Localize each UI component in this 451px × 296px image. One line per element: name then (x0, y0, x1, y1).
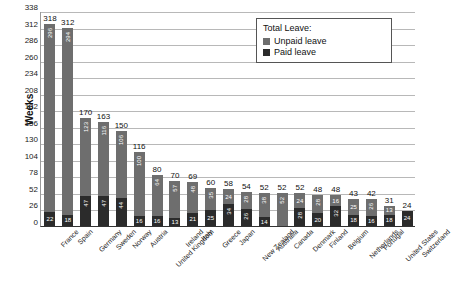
bar-group[interactable]: 17012347 (80, 118, 91, 226)
bar-segment-unpaid[interactable]: 294 (62, 28, 73, 215)
legend-swatch-icon (263, 38, 270, 45)
legend-entries: Unpaid leavePaid leave (263, 36, 385, 57)
bar-group[interactable]: 603525 (205, 188, 216, 226)
bar-segment-unpaid-value: 28 (243, 196, 249, 203)
bar-segment-paid-value: 20 (312, 217, 323, 223)
bar-group[interactable]: 542826 (241, 192, 252, 226)
y-axis-tick: 26 (14, 202, 38, 210)
bar-segment-paid-value: 34 (226, 208, 232, 215)
bar-segment-unpaid[interactable]: 38 (259, 193, 270, 217)
bar-segment-paid[interactable]: 32 (330, 206, 341, 226)
bar-segment-paid[interactable]: 13 (169, 218, 180, 226)
bar-segment-paid[interactable]: 44 (116, 198, 127, 226)
bar-segment-paid[interactable]: 22 (44, 212, 55, 226)
bar-group[interactable]: 705713 (169, 181, 180, 226)
bar-segment-unpaid[interactable]: 106 (116, 131, 127, 198)
bar-segment-unpaid-value: 48 (190, 186, 196, 193)
bar-segment-unpaid-value: 64 (154, 179, 160, 186)
bar-segment-paid-value: 13 (169, 219, 180, 225)
bar-total-label: 24 (396, 202, 419, 210)
bar-segment-unpaid-value: 106 (118, 135, 124, 145)
bar-group[interactable]: 15010644 (116, 131, 127, 226)
bar-segment-paid[interactable]: 16 (366, 216, 377, 226)
bar-group[interactable]: 5252 (277, 193, 288, 226)
bar-segment-unpaid-value: 16 (330, 198, 341, 204)
legend-entry[interactable]: Paid leave (263, 47, 385, 57)
bar-segment-unpaid[interactable]: 48 (187, 182, 198, 213)
bar-total-label: 116 (128, 143, 151, 151)
bar-segment-paid[interactable]: 14 (259, 217, 270, 226)
bar-group[interactable]: 422616 (366, 199, 377, 226)
bar-segment-unpaid[interactable]: 52 (277, 193, 288, 226)
bar-segment-paid[interactable]: 20 (312, 213, 323, 226)
bar-segment-unpaid[interactable]: 25 (348, 199, 359, 215)
bar-group[interactable]: 582434 (223, 189, 234, 226)
bar-total-label: 150 (110, 122, 133, 130)
bar-total-label: 163 (92, 113, 115, 121)
bar-segment-unpaid[interactable]: 123 (80, 118, 91, 196)
bar-segment-paid[interactable]: 16 (152, 216, 163, 226)
bar-group[interactable]: 31229418 (62, 28, 73, 226)
bar-group[interactable]: 523814 (259, 193, 270, 226)
bar-group[interactable]: 432518 (348, 199, 359, 226)
bar-segment-paid-value: 16 (152, 218, 163, 224)
bar-total-label: 312 (56, 19, 79, 27)
bar-segment-paid[interactable]: 47 (80, 196, 91, 226)
bar-segment-unpaid[interactable]: 35 (205, 188, 216, 210)
bar-group[interactable]: 694821 (187, 182, 198, 226)
bar-segment-paid[interactable]: 26 (241, 209, 252, 226)
bar-segment-paid[interactable]: 18 (62, 215, 73, 226)
bar-segment-paid[interactable]: 16 (134, 216, 145, 226)
bar-segment-paid-value: 32 (333, 210, 339, 217)
bar-group[interactable]: 16311647 (98, 122, 109, 226)
bar-segment-paid-value: 44 (118, 202, 124, 209)
bar-segment-paid[interactable]: 18 (384, 215, 395, 226)
bar-segment-paid[interactable]: 34 (223, 204, 234, 226)
bar-group[interactable]: 806416 (152, 175, 163, 226)
bar-segment-unpaid-value: 26 (368, 203, 374, 210)
bar-group[interactable]: 2424 (402, 211, 413, 226)
bar-segment-unpaid[interactable]: 296 (44, 24, 55, 212)
bar-segment-unpaid-value: 25 (348, 204, 359, 210)
bar-group[interactable]: 311318 (384, 206, 395, 226)
y-axis-tick: 260 (14, 54, 38, 62)
bar-group[interactable]: 11610016 (134, 152, 145, 226)
legend-swatch-icon (263, 49, 270, 56)
x-axis-label: Greece (220, 228, 241, 249)
bar-group[interactable]: 481632 (330, 195, 341, 226)
bar-segment-paid[interactable]: 24 (402, 211, 413, 226)
bar-segment-unpaid[interactable]: 16 (330, 195, 341, 205)
bar-segment-paid[interactable]: 18 (348, 215, 359, 226)
x-axis-label: France (59, 228, 79, 248)
bar-segment-unpaid-value: 296 (47, 28, 53, 38)
bar-segment-unpaid[interactable]: 116 (98, 122, 109, 196)
y-axis-tick: 156 (14, 120, 38, 128)
bar-segment-paid[interactable]: 47 (98, 196, 109, 226)
bar-segment-paid-value: 22 (44, 216, 55, 222)
bar-segment-paid-value: 21 (187, 216, 198, 222)
bar-segment-paid[interactable]: 28 (294, 208, 305, 226)
bar-segment-unpaid[interactable]: 64 (152, 175, 163, 216)
bar-segment-unpaid[interactable]: 24 (223, 189, 234, 204)
bar-segment-unpaid-value: 24 (223, 194, 234, 200)
bar-segment-unpaid-value: 28 (315, 199, 321, 206)
legend-entry[interactable]: Unpaid leave (263, 36, 385, 46)
bar-segment-unpaid-value: 100 (136, 156, 142, 166)
bar-segment-unpaid[interactable]: 13 (384, 206, 395, 214)
x-axis-category-labels: FranceSpainGermanySwedenNorwayAustriaUni… (40, 228, 415, 290)
bar-segment-unpaid[interactable]: 100 (134, 152, 145, 216)
bar-group[interactable]: 482820 (312, 195, 323, 226)
y-axis-tick: 312 (14, 21, 38, 29)
bar-segment-paid-value: 16 (134, 218, 145, 224)
bar-segment-unpaid[interactable]: 28 (312, 195, 323, 213)
bar-segment-unpaid[interactable]: 28 (241, 192, 252, 210)
bar-segment-unpaid[interactable]: 57 (169, 181, 180, 217)
bar-segment-paid[interactable]: 21 (187, 213, 198, 226)
legend-label: Paid leave (274, 47, 316, 57)
bar-group[interactable]: 31829622 (44, 24, 55, 226)
bar-segment-unpaid[interactable]: 24 (294, 193, 305, 208)
bar-segment-paid[interactable]: 25 (205, 210, 216, 226)
bar-segment-unpaid[interactable]: 26 (366, 199, 377, 216)
bar-group[interactable]: 522428 (294, 193, 305, 226)
